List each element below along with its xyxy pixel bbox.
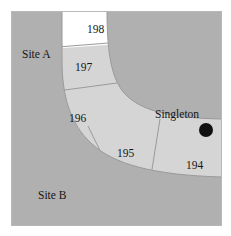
singleton-marker [199, 123, 213, 137]
map-figure: Site A Site B 198 197 196 195 194 Single… [0, 0, 231, 236]
map-canvas [0, 0, 231, 236]
